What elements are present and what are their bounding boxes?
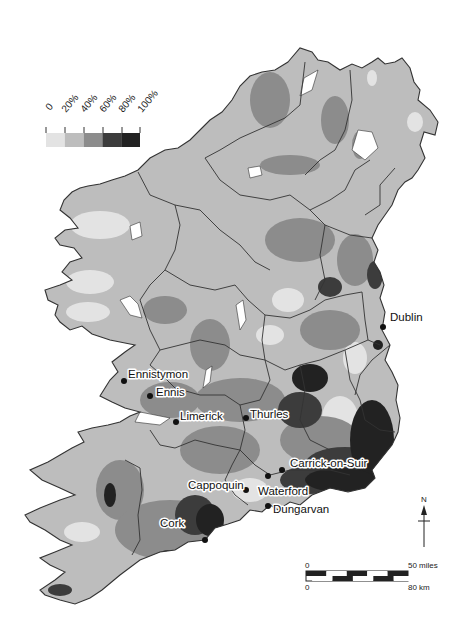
legend-swatch-40-60pct: [84, 133, 103, 147]
scale-segment: [388, 571, 408, 576]
city-label: Waterford: [258, 485, 308, 497]
scale-bar: 0 50 miles 0 80 km: [305, 561, 438, 592]
city-marker: [121, 378, 127, 384]
city-marker: [265, 503, 271, 509]
legend: 0 20% 40% 60% 80% 100%: [43, 88, 160, 147]
zone: [70, 211, 130, 239]
scale-segment: [312, 576, 332, 581]
zone: [373, 340, 383, 350]
legend-swatch-0-20pct: [46, 133, 65, 147]
city-label: Ennistymon: [128, 368, 188, 380]
zone: [292, 364, 328, 392]
scale-km-end: 80 km: [408, 583, 430, 592]
legend-tick-80: 80%: [116, 92, 137, 114]
city-label: Limerick: [180, 410, 223, 422]
city-thurles[interactable]: Thurles: [243, 408, 289, 421]
scale-segment: [367, 571, 387, 576]
zone: [20, 413, 60, 437]
city-label: Cappoquin: [188, 479, 244, 491]
city-label: Ennis: [156, 386, 185, 398]
legend-ticks: [46, 127, 140, 133]
legend-tick-0: 0: [43, 101, 55, 113]
city-marker: [380, 324, 386, 330]
zone: [300, 310, 360, 350]
island-land: [25, 48, 438, 604]
city-marker: [173, 419, 179, 425]
zone: [260, 155, 320, 175]
scale-segment: [326, 571, 346, 576]
zone: [154, 550, 182, 574]
city-dublin[interactable]: Dublin: [380, 311, 423, 330]
city-label: Carrick-on-Suir: [290, 457, 367, 469]
city-marker: [147, 393, 153, 399]
zone: [66, 270, 114, 294]
legend-swatch-80-100pct: [121, 133, 140, 147]
legend-swatch-20-40pct: [65, 133, 84, 147]
legend-swatches: [46, 133, 140, 147]
city-marker: [243, 415, 249, 421]
city-cappoquin[interactable]: Cappoquin: [188, 479, 249, 493]
scale-miles-end: 50 miles: [408, 561, 438, 570]
scale-segment: [373, 576, 393, 581]
zone: [321, 96, 349, 144]
scale-segment: [347, 571, 367, 576]
legend-tick-60: 60%: [97, 92, 118, 114]
zone: [64, 522, 100, 542]
city-marker: [243, 487, 249, 493]
zone: [256, 325, 284, 345]
scale-segments: [306, 571, 414, 581]
north-label: N: [421, 495, 427, 504]
legend-tick-20: 20%: [59, 92, 80, 114]
scale-segment: [394, 576, 414, 581]
city-label: Dungarvan: [273, 503, 329, 515]
zone: [272, 288, 304, 312]
zone: [104, 483, 116, 507]
zone: [250, 72, 290, 128]
scale-miles-start: 0: [305, 561, 310, 570]
city-marker: [202, 537, 208, 543]
city-label: Thurles: [250, 408, 289, 420]
scale-segment: [353, 576, 373, 581]
scale-segment: [306, 571, 326, 576]
city-marker: [279, 467, 285, 473]
island: [20, 48, 438, 604]
scale-segment: [333, 576, 353, 581]
zone: [66, 302, 110, 322]
legend-tick-40: 40%: [78, 92, 99, 114]
legend-tick-labels: 0 20% 40% 60% 80% 100%: [43, 88, 160, 115]
zone: [367, 70, 377, 86]
legend-swatch-60-80pct: [102, 133, 121, 147]
zone: [167, 554, 183, 570]
ireland-map: 0 20% 40% 60% 80% 100%: [0, 0, 468, 629]
zone: [196, 504, 224, 536]
zone: [180, 426, 260, 474]
city-label: Cork: [160, 517, 185, 529]
city-dungarvan[interactable]: Dungarvan: [265, 503, 329, 515]
legend-tick-100: 100%: [135, 88, 160, 115]
north-arrow: N: [418, 495, 430, 547]
zone: [48, 584, 72, 596]
zone: [143, 296, 187, 324]
zone: [407, 112, 423, 132]
city-marker: [265, 473, 271, 479]
city-label: Dublin: [390, 311, 423, 323]
scale-km-start: 0: [305, 583, 310, 592]
